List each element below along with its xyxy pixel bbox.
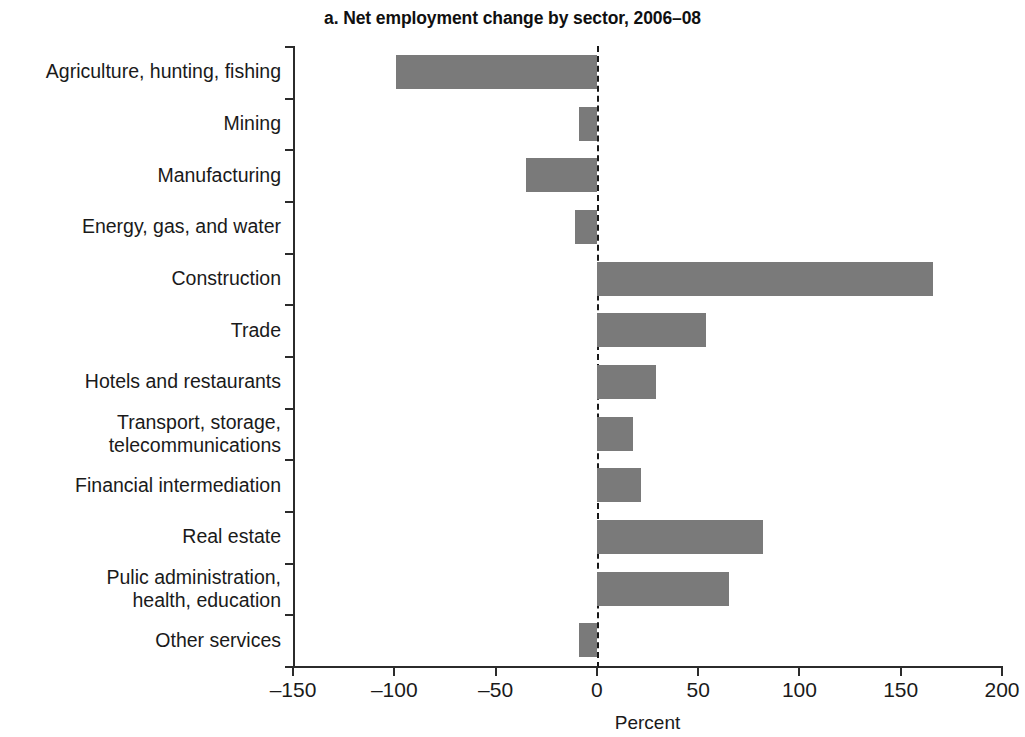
category-label: Trade — [0, 319, 281, 342]
x-axis-line — [293, 666, 1002, 668]
category-axis-tick — [285, 46, 295, 48]
category-label: Transport, storage, telecommunications — [0, 411, 281, 457]
category-label: Real estate — [0, 525, 281, 548]
category-label: Other services — [0, 629, 281, 652]
category-axis-tick — [285, 149, 295, 151]
x-axis-tick — [1001, 666, 1003, 676]
category-label: Financial intermediation — [0, 474, 281, 497]
category-label: Pulic administration, health, education — [0, 566, 281, 612]
bar — [597, 572, 729, 606]
x-axis-tick-label: –50 — [451, 678, 541, 702]
bar — [579, 107, 597, 141]
category-axis-tick — [285, 201, 295, 203]
x-axis-tick-label: –100 — [349, 678, 439, 702]
category-axis-tick — [285, 253, 295, 255]
x-axis-tick-label: 200 — [957, 678, 1025, 702]
chart-figure: a. Net employment change by sector, 2006… — [0, 0, 1025, 737]
bar — [396, 55, 597, 89]
category-label: Construction — [0, 267, 281, 290]
category-axis-tick — [285, 408, 295, 410]
bar — [597, 417, 633, 451]
category-axis-tick — [285, 459, 295, 461]
chart-title: a. Net employment change by sector, 2006… — [0, 8, 1025, 29]
x-axis-tick — [798, 666, 800, 676]
x-axis-tick — [393, 666, 395, 676]
category-label: Hotels and restaurants — [0, 370, 281, 393]
category-axis-tick — [285, 304, 295, 306]
category-label: Energy, gas, and water — [0, 215, 281, 238]
category-label: Mining — [0, 112, 281, 135]
x-axis-tick-label: 50 — [653, 678, 743, 702]
x-axis-tick — [697, 666, 699, 676]
category-axis-tick — [285, 356, 295, 358]
x-axis-tick-label: –150 — [248, 678, 338, 702]
bar — [575, 210, 597, 244]
bar — [597, 468, 642, 502]
x-axis-tick — [292, 666, 294, 676]
x-axis-tick-label: 100 — [754, 678, 844, 702]
x-axis-tick — [495, 666, 497, 676]
category-label: Agriculture, hunting, fishing — [0, 60, 281, 83]
x-axis-title: Percent — [293, 712, 1002, 734]
category-label: Manufacturing — [0, 164, 281, 187]
category-axis-tick — [285, 98, 295, 100]
x-axis-tick — [596, 666, 598, 676]
x-axis-tick-label: 0 — [552, 678, 642, 702]
bar — [597, 313, 706, 347]
x-axis-tick-label: 150 — [856, 678, 946, 702]
bar — [597, 365, 656, 399]
bar — [597, 520, 763, 554]
bar — [526, 158, 597, 192]
category-axis-tick — [285, 614, 295, 616]
category-axis-tick — [285, 563, 295, 565]
bar — [597, 262, 933, 296]
bar — [579, 623, 597, 657]
x-axis-tick — [900, 666, 902, 676]
category-axis-tick — [285, 511, 295, 513]
